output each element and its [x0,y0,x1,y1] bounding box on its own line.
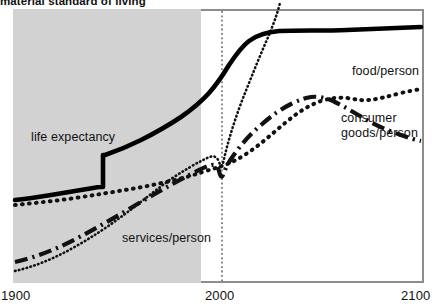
plot-area [13,9,424,283]
series-canvas [13,9,424,283]
consumer-label-line-2: goods/person [341,126,418,141]
series-consumer-goods-per-person [15,89,421,205]
x-axis-tick-1900: 1900 [1,288,30,303]
x-axis-tick-2000: 2000 [205,288,234,303]
series-label-services-per-person: services/person [122,231,211,246]
chart-root: material standard of living 1900 2000 21… [0,0,440,306]
series-label-food-per-person: food/person [352,64,419,79]
x-axis-tick-2100: 2100 [401,288,430,303]
chart-title: material standard of living [0,0,146,7]
series-label-life-expectancy: life expectancy [31,130,115,145]
consumer-label-line-1: consumer [341,111,397,125]
series-label-consumer-goods-per-person: consumer goods/person [341,111,418,141]
